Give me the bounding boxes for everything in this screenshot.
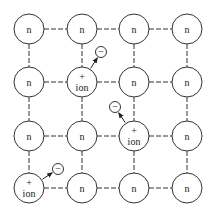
negative-charge-label: − — [98, 46, 104, 57]
free-electron: − — [42, 163, 63, 179]
neutral-label: n — [185, 24, 190, 35]
ion-atom: +ion — [119, 121, 149, 151]
neutral-label: n — [132, 77, 137, 88]
neutral-atom: n — [14, 14, 44, 44]
neutral-atom: n — [67, 121, 97, 151]
neutral-label: n — [80, 24, 85, 35]
free-electron: − — [110, 101, 126, 122]
neutral-atom: n — [172, 121, 202, 151]
positive-charge-label: + — [131, 125, 137, 136]
atoms-group: nnnnn+ionnnnn+ionn+ionnnn — [14, 14, 202, 203]
neutral-label: n — [185, 131, 190, 142]
positive-charge-label: + — [79, 71, 85, 82]
neutral-atom: n — [67, 14, 97, 44]
neutral-label: n — [80, 183, 85, 194]
neutral-label: n — [185, 77, 190, 88]
ion-label: ion — [23, 188, 36, 199]
bond-lines — [29, 29, 187, 188]
electron-arrow-icon — [119, 113, 125, 123]
electrons-group: −−− — [42, 46, 125, 179]
neutral-atom: n — [14, 67, 44, 97]
electron-arrow-icon — [42, 173, 52, 179]
neutral-atom: n — [14, 121, 44, 151]
positive-charge-label: + — [26, 177, 32, 188]
neutral-label: n — [80, 131, 85, 142]
neutral-label: n — [132, 24, 137, 35]
neutral-label: n — [27, 77, 32, 88]
neutral-label: n — [27, 24, 32, 35]
ion-label: ion — [128, 136, 141, 147]
ionization-lattice-diagram: nnnnn+ionnnnn+ionn+ionnnn −−− — [0, 0, 215, 212]
neutral-atom: n — [172, 14, 202, 44]
neutral-atom: n — [119, 14, 149, 44]
neutral-atom: n — [119, 67, 149, 97]
neutral-label: n — [27, 131, 32, 142]
neutral-atom: n — [172, 173, 202, 203]
electron-arrow-icon — [91, 58, 98, 69]
ion-atom: +ion — [67, 67, 97, 97]
neutral-atom: n — [119, 173, 149, 203]
ion-atom: +ion — [14, 173, 44, 203]
neutral-label: n — [132, 183, 137, 194]
neutral-atom: n — [67, 173, 97, 203]
neutral-label: n — [185, 183, 190, 194]
ion-label: ion — [76, 82, 89, 93]
free-electron: − — [91, 46, 107, 68]
negative-charge-label: − — [112, 101, 118, 112]
neutral-atom: n — [172, 67, 202, 97]
negative-charge-label: − — [55, 163, 61, 174]
